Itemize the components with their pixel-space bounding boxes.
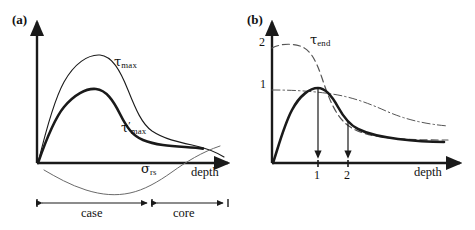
panel-a-label-sigma-rs-subscript: rs: [150, 167, 157, 177]
panel-b-curve-tau-end-level-2: [272, 44, 448, 140]
panel-a-label-tau-prime-max-subscript: max: [131, 126, 147, 136]
panel-a-label-sigma-rs: σrs: [141, 162, 157, 177]
panel-b-x-tick-1-label: 1: [314, 169, 320, 181]
panel-a-axes: [37, 22, 228, 163]
panel-b-tag: (b): [247, 13, 263, 26]
panel-b-label-tau-end-subscript: end: [317, 38, 330, 48]
panel-a-span-label-core: core: [173, 207, 195, 220]
panel-a-label-tau-max: τmax: [114, 55, 137, 70]
panel-a-span-arrows: [37, 199, 228, 207]
figure-canvas: [0, 0, 475, 230]
panel-a-label-tau-max-subscript: max: [121, 60, 137, 70]
panel-a-tag: (a): [12, 13, 27, 26]
panel-b-x-axis-label: depth: [414, 166, 442, 179]
panel-a-label-sigma-rs-symbol: σ: [141, 161, 150, 176]
panel-b-y-level-1-label: 1: [260, 78, 266, 90]
panel-a-label-tau-prime-max: τ′max: [121, 120, 146, 136]
panel-b-curve-tau-profile: [273, 88, 444, 163]
panel-b-y-level-2-label: 2: [259, 36, 265, 48]
panel-b-curve-tau-end-level-1: [272, 90, 448, 126]
panel-a-span-label-case: case: [81, 207, 103, 220]
figure-container: (a) τmax τ′max σrs depth case core (b) 2…: [0, 0, 475, 230]
panel-a-x-axis-label: depth: [191, 166, 219, 179]
panel-b-label-tau-end: τend: [310, 33, 331, 48]
panel-b-x-tick-2-label: 2: [344, 169, 350, 181]
